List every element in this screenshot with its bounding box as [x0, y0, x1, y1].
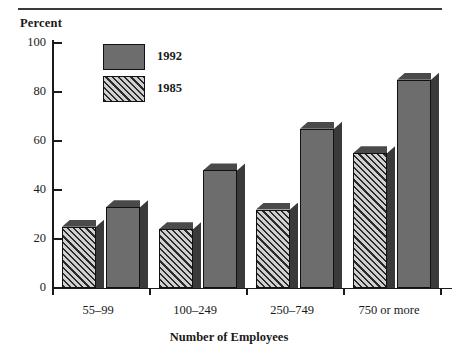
bar-1992-3: [397, 80, 431, 288]
y-axis-line: [52, 40, 54, 289]
legend-swatch-1992: [103, 44, 145, 70]
bar-top-face: [62, 220, 96, 227]
legend-label-1985: 1985: [157, 81, 182, 96]
bar-chart-figure: Percent 100806040200 55–99100–249250–749…: [0, 0, 458, 356]
bar-1985-0: [62, 227, 96, 288]
bar-front-face: [62, 227, 96, 288]
x-tick-mark: [52, 288, 54, 295]
x-tick-mark: [343, 288, 345, 295]
x-tick-label: 750 or more: [327, 303, 451, 318]
bar-top-face: [203, 163, 237, 170]
bar-top-face: [300, 122, 334, 129]
bar-front-face: [300, 129, 334, 288]
bar-side-face: [387, 146, 395, 288]
bar-1985-2: [256, 210, 290, 288]
y-axis-title: Percent: [20, 16, 62, 31]
bar-1992-1: [203, 170, 237, 288]
x-axis-title: Number of Employees: [0, 330, 458, 345]
x-tick-mark: [440, 288, 442, 295]
bar-front-face: [256, 210, 290, 288]
bar-1985-1: [159, 229, 193, 288]
bar-top-face: [256, 203, 290, 210]
bar-front-face: [353, 153, 387, 288]
header-rule: [18, 8, 442, 10]
bar-side-face: [237, 163, 245, 288]
bar-side-face: [193, 222, 201, 288]
bar-1992-0: [106, 207, 140, 288]
bar-side-face: [290, 203, 298, 288]
y-tick-mark: [54, 189, 62, 191]
y-tick-mark: [54, 238, 62, 240]
y-tick-label: 0: [0, 280, 46, 295]
bar-top-face: [353, 146, 387, 153]
bar-1992-2: [300, 129, 334, 288]
bar-top-face: [159, 222, 193, 229]
legend-swatch-1985: [103, 76, 145, 102]
bar-front-face: [106, 207, 140, 288]
bar-side-face: [96, 220, 104, 288]
bar-1985-3: [353, 153, 387, 288]
y-tick-mark: [54, 91, 62, 93]
y-tick-mark: [54, 42, 62, 44]
y-tick-mark: [54, 140, 62, 142]
bar-front-face: [159, 229, 193, 288]
y-tick-label: 100: [0, 35, 46, 50]
y-tick-mark: [54, 287, 62, 289]
x-tick-mark: [246, 288, 248, 295]
bar-top-face: [106, 200, 140, 207]
bar-side-face: [334, 122, 342, 288]
legend-label-1992: 1992: [157, 49, 182, 64]
bar-front-face: [397, 80, 431, 288]
bar-front-face: [203, 170, 237, 288]
y-tick-label: 40: [0, 182, 46, 197]
x-tick-mark: [149, 288, 151, 295]
bar-top-face: [397, 73, 431, 80]
bar-side-face: [140, 200, 148, 288]
y-tick-label: 60: [0, 133, 46, 148]
bar-side-face: [431, 73, 439, 288]
y-tick-label: 80: [0, 84, 46, 99]
y-tick-label: 20: [0, 231, 46, 246]
